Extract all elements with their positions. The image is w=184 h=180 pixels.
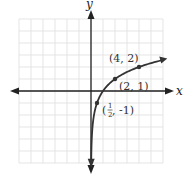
y-axis-label: y xyxy=(85,0,93,11)
y-axis-up-arrow-icon xyxy=(88,10,95,19)
graph: x y (4, 2) (2, 1) ( 1 2 , -1) xyxy=(0,0,184,180)
point-4-2 xyxy=(137,65,141,69)
svg-text:(: ( xyxy=(102,104,106,117)
x-axis-left-arrow-icon xyxy=(10,88,19,95)
label-2-1: (2, 1) xyxy=(119,80,149,93)
x-axis-label: x xyxy=(176,84,183,98)
point-half-neg1 xyxy=(95,101,99,105)
point-2-1 xyxy=(113,77,117,81)
label-half-neg1: ( 1 2 , -1) xyxy=(102,102,134,119)
label-4-2: (4, 2) xyxy=(109,52,139,65)
svg-text:, -1): , -1) xyxy=(112,104,134,117)
x-axis-right-arrow-icon xyxy=(165,88,174,95)
